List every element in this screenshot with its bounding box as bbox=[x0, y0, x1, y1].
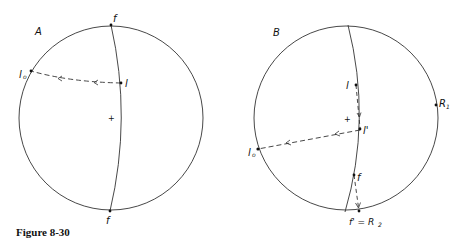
figure-caption: Figure 8-30 bbox=[16, 226, 70, 238]
panel-label-a: A bbox=[34, 26, 42, 37]
rotation-path-a bbox=[31, 71, 121, 83]
point-f-prime-r2-b bbox=[358, 210, 361, 213]
label-f-b: f bbox=[357, 172, 362, 183]
panel-b: + B l l' l o R 1 f f' = R 2 bbox=[248, 25, 450, 228]
arrow-icon bbox=[94, 80, 98, 85]
label-l-prime-b: l' bbox=[363, 125, 369, 136]
label-l0-sub-b: o bbox=[252, 151, 256, 158]
label-r1-sub-b: 1 bbox=[446, 103, 450, 110]
point-l0-b bbox=[256, 147, 259, 150]
arrow-icon bbox=[58, 76, 62, 81]
label-l-a: l bbox=[125, 78, 128, 89]
label-l-b: l bbox=[346, 80, 349, 91]
label-f-top-a: f bbox=[113, 13, 118, 24]
label-l0-b: l bbox=[248, 147, 251, 158]
point-l-a bbox=[120, 82, 123, 85]
center-mark-b: + bbox=[344, 115, 351, 124]
stereonet-figure: + A f f l l o + B l l' l o bbox=[0, 0, 464, 241]
arrow-icon bbox=[335, 131, 340, 136]
label-f-prime-r2-b: f' = R bbox=[349, 217, 374, 227]
label-r1-b: R bbox=[439, 98, 446, 109]
point-f-b bbox=[353, 174, 356, 177]
point-l-prime-b bbox=[359, 128, 362, 131]
rotation-path-l0-b bbox=[258, 130, 360, 149]
label-r2-sub-b: 2 bbox=[378, 221, 382, 228]
label-l0-sub-a: o bbox=[23, 73, 27, 80]
label-l0-a: l bbox=[19, 69, 22, 80]
panel-label-b: B bbox=[273, 27, 280, 38]
label-f-bottom-a: f bbox=[106, 215, 111, 226]
panel-a: + A f f l l o bbox=[19, 13, 203, 226]
point-f-top-a bbox=[110, 24, 113, 27]
center-mark-a: + bbox=[108, 114, 115, 123]
point-l-b bbox=[355, 84, 358, 87]
point-r1-b bbox=[435, 104, 438, 107]
point-l0-a bbox=[30, 70, 33, 73]
point-f-bottom-a bbox=[109, 210, 112, 213]
arrow-icon bbox=[286, 140, 291, 145]
